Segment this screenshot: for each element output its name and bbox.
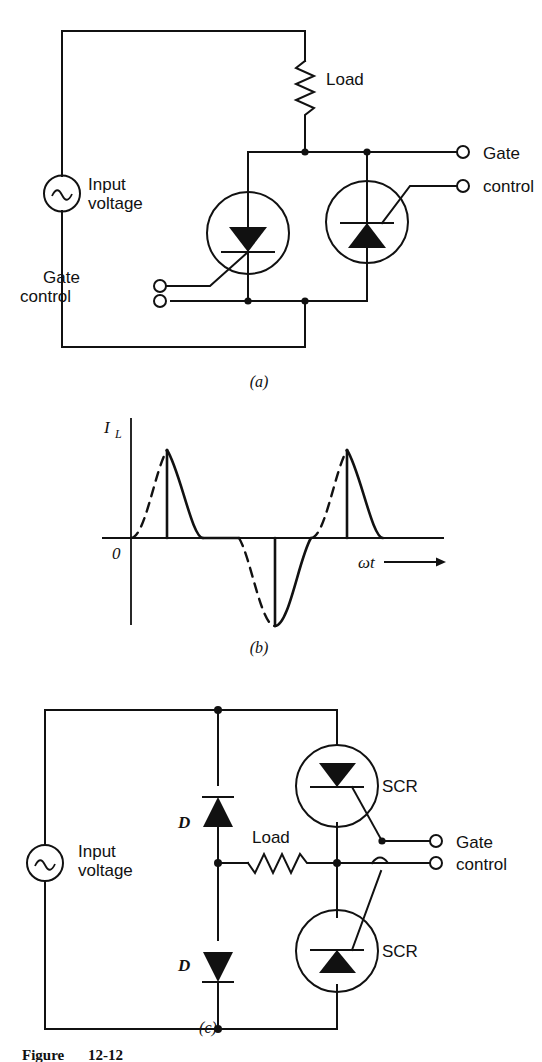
diode-bottom-label: D: [177, 956, 190, 975]
load-resistor-c: [248, 854, 411, 873]
waveform-solid-seg-2: [275, 538, 311, 626]
gate-control-left-line1: Gate: [43, 268, 80, 287]
junction-dot: [301, 297, 308, 304]
input-voltage-label-c-line1: Input: [78, 842, 116, 861]
gate-control-left-line2: control: [20, 287, 71, 306]
scr-left-anode-triangle: [229, 227, 267, 252]
panel-b-tag: (b): [250, 639, 269, 657]
load-label-c: Load: [252, 828, 290, 847]
gate-control-right-line2: control: [483, 177, 534, 196]
junction-dot: [214, 859, 222, 867]
junction-dot: [244, 297, 251, 304]
gate-control-right-line1: Gate: [483, 144, 520, 163]
gate-terminal-left-upper[interactable]: [154, 280, 166, 292]
gate-control-c-line2: control: [456, 855, 507, 874]
gate-terminal-left-lower[interactable]: [154, 295, 166, 307]
figure-caption-number: 12-12: [88, 1047, 123, 1062]
ac-source-icon-c: [27, 845, 63, 881]
waveform-solid-seg-1: [167, 450, 203, 538]
waveform-dashed-seg-2: [239, 538, 275, 626]
scr-top-anode-triangle: [319, 763, 356, 787]
waveform-solid-seg-3: [347, 450, 383, 538]
junction-dot: [333, 859, 341, 867]
junction-dot: [378, 837, 385, 844]
ac-source-sine-glyph-c: [35, 860, 55, 870]
origin-label: 0: [112, 544, 121, 563]
figure-svg: Input voltage Load Gate control: [0, 0, 542, 1062]
figure-caption: Figure 12-12: [22, 1047, 123, 1062]
gate-terminal-right-upper[interactable]: [457, 146, 469, 158]
panel-a-tag: (a): [250, 373, 269, 391]
junction-dot: [214, 706, 222, 714]
arrow-right-head: [436, 558, 446, 567]
scr-bottom-anode-triangle: [319, 950, 356, 973]
diode-top-label: D: [177, 813, 190, 832]
input-voltage-label-c-line2: voltage: [78, 861, 133, 880]
figure-caption-label: Figure: [22, 1047, 65, 1062]
scr-top-label: SCR: [382, 777, 418, 796]
scr-bottom-label: SCR: [382, 942, 418, 961]
gate-terminal-c-upper[interactable]: [430, 835, 442, 847]
load-resistor-a: [296, 61, 314, 152]
diode-bottom-triangle: [203, 952, 233, 982]
gate-control-c-line1: Gate: [456, 833, 493, 852]
panel-a-circuit: Input voltage Load Gate control: [20, 31, 534, 391]
waveform-dashed-seg-3: [311, 450, 347, 538]
figure-12-12: Input voltage Load Gate control: [0, 0, 542, 1062]
diode-top-triangle: [203, 797, 233, 827]
junction-dot: [363, 148, 370, 155]
gate-terminal-right-lower[interactable]: [457, 180, 469, 192]
input-voltage-label-line1: Input: [88, 175, 126, 194]
panel-c-tag: (c): [199, 1019, 217, 1037]
scr-right-anode-triangle: [348, 223, 386, 248]
input-voltage-label-line2: voltage: [88, 194, 143, 213]
x-axis-label: ωt: [358, 553, 376, 572]
load-label-a: Load: [326, 70, 364, 89]
panel-b-waveform: I L 0 ωt (b): [102, 418, 446, 657]
gate-terminal-c-lower[interactable]: [430, 857, 442, 869]
y-axis-subscript: L: [114, 427, 122, 441]
junction-dot: [301, 148, 308, 155]
panel-c-circuit: Input voltage D D Load SCR SCR: [27, 706, 507, 1037]
waveform-dashed-seg-1: [131, 450, 167, 538]
scr-left-gate-lead: [166, 252, 248, 286]
y-axis-label: I: [103, 418, 111, 437]
ac-source-sine-glyph: [52, 190, 72, 200]
